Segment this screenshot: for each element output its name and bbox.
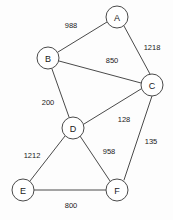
node-label: C bbox=[149, 81, 156, 91]
edge-weight-label: 958 bbox=[103, 147, 116, 156]
graph-canvas: 98812188502001281351212958800 ABCDEF bbox=[0, 0, 173, 220]
node-label: F bbox=[114, 186, 120, 196]
edge-weight-label: 200 bbox=[42, 98, 55, 107]
node-label: E bbox=[20, 186, 26, 196]
edge-weight-label: 988 bbox=[65, 21, 78, 30]
edge-weight-label: 1212 bbox=[24, 151, 41, 160]
graph-diagram: 98812188502001281351212958800 ABCDEF bbox=[0, 0, 173, 220]
node-label: A bbox=[114, 13, 120, 23]
graph-edge bbox=[84, 89, 141, 124]
graph-node: E bbox=[12, 179, 34, 201]
graph-node: B bbox=[37, 47, 59, 69]
graph-node: D bbox=[62, 117, 84, 139]
edge-weight-label: 135 bbox=[145, 137, 158, 146]
edge-weight-label: 1218 bbox=[144, 43, 161, 52]
nodes-layer: ABCDEF bbox=[12, 6, 163, 201]
graph-edge bbox=[59, 61, 141, 83]
graph-edge bbox=[52, 69, 69, 117]
graph-edge bbox=[80, 136, 110, 181]
graph-node: F bbox=[106, 179, 128, 201]
node-label: B bbox=[45, 54, 51, 64]
node-label: D bbox=[70, 124, 77, 134]
edge-weight-label: 128 bbox=[118, 115, 131, 124]
graph-node: A bbox=[106, 6, 128, 28]
graph-node: C bbox=[141, 74, 163, 96]
edge-weight-label: 850 bbox=[106, 56, 119, 65]
edge-weight-label: 800 bbox=[65, 201, 78, 210]
